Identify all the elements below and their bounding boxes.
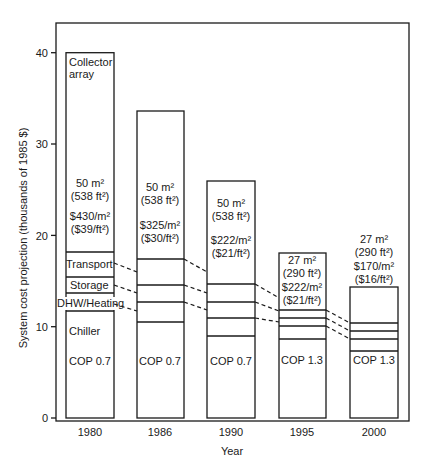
price-ft-1995: ($21/ft²) <box>283 294 322 306</box>
dhw-label: DHW/Heating <box>57 297 124 309</box>
cop-1986: COP 0.7 <box>139 355 181 367</box>
area-1990: 50 m² <box>217 197 245 209</box>
area-ft-1986: (538 ft²) <box>141 194 180 206</box>
x-tick-2000: 2000 <box>362 426 386 438</box>
bar-1986-labels: 50 m² (538 ft²) $325/m² ($30/ft²) COP 0.… <box>139 181 181 367</box>
price-1990: $222/m² <box>211 234 252 246</box>
price-1986: $325/m² <box>140 219 181 231</box>
price-ft-1990: ($21/ft²) <box>212 247 251 259</box>
cost-projection-chart: 0 10 20 30 40 System cost projection (th… <box>0 0 425 464</box>
y-tick-0: 0 <box>42 412 48 424</box>
price-ft-1980: ($39/ft²) <box>71 223 110 235</box>
x-tick-labels: 1980 1986 1990 1995 2000 <box>78 426 386 438</box>
price-2000: $170/m² <box>354 260 395 272</box>
bar-1986 <box>137 111 184 418</box>
cop-2000: COP 1.3 <box>353 354 395 366</box>
x-tick-1986: 1986 <box>148 426 172 438</box>
y-tick-10: 10 <box>36 321 48 333</box>
area-ft-1990: (538 ft²) <box>212 210 251 222</box>
area-1986: 50 m² <box>146 181 174 193</box>
price-ft-1986: ($30/ft²) <box>141 232 180 244</box>
bar-2000 <box>350 287 398 418</box>
y-axis <box>51 53 56 418</box>
area-1980: 50 m² <box>76 177 104 189</box>
y-tick-40: 40 <box>36 47 48 59</box>
x-tick-1980: 1980 <box>78 426 102 438</box>
collector-label-1: Collector <box>69 56 113 68</box>
y-tick-20: 20 <box>36 230 48 242</box>
y-tick-30: 30 <box>36 138 48 150</box>
y-axis-label: System cost projection (thousands of 198… <box>17 128 29 349</box>
price-1980: $430/m² <box>70 210 111 222</box>
x-tick-1995: 1995 <box>290 426 314 438</box>
collector-label-2: array <box>69 68 95 80</box>
cop-1995: COP 1.3 <box>281 354 323 366</box>
area-ft-1980: (538 ft²) <box>71 190 110 202</box>
storage-label: Storage <box>70 279 109 291</box>
x-axis-label: Year <box>221 445 244 457</box>
cop-1980: COP 0.7 <box>69 355 111 367</box>
price-1995: $222/m² <box>282 281 323 293</box>
bar-2000-labels: 27 m² (290 ft²) $170/m² ($16/ft²) COP 1.… <box>353 233 395 366</box>
area-1995: 27 m² <box>288 254 316 266</box>
cop-1990: COP 0.7 <box>210 355 252 367</box>
x-tick-1990: 1990 <box>219 426 243 438</box>
transport-label: Transport <box>66 258 113 270</box>
area-ft-2000: (290 ft²) <box>355 246 394 258</box>
bar-1990-labels: 50 m² (538 ft²) $222/m² ($21/ft²) COP 0.… <box>210 197 252 367</box>
price-ft-2000: ($16/ft²) <box>355 273 394 285</box>
area-ft-1995: (290 ft²) <box>283 267 322 279</box>
chiller-label: Chiller <box>69 325 101 337</box>
y-tick-labels: 0 10 20 30 40 <box>36 47 48 424</box>
area-2000: 27 m² <box>360 233 388 245</box>
